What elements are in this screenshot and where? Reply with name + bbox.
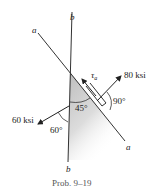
caption: Prob. 9–19 xyxy=(52,178,92,188)
label-80ksi: 80 ksi xyxy=(124,70,146,80)
label-angle-90: 90° xyxy=(113,96,126,106)
shaded-region xyxy=(68,72,118,160)
label-a-top: a xyxy=(32,25,37,35)
label-tau: τa xyxy=(91,70,97,81)
normal-arrow-60 xyxy=(38,106,69,124)
angle-arc-60 xyxy=(58,112,68,122)
label-a-bottom: a xyxy=(126,142,131,152)
label-angle-45: 45° xyxy=(75,103,88,113)
diagram-canvas: b b a a 80 ksi 60 ksi τa 45° 90° 60° Pro… xyxy=(0,0,157,190)
label-b-top: b xyxy=(70,12,75,22)
label-b-bottom: b xyxy=(66,164,71,174)
label-60ksi: 60 ksi xyxy=(12,115,34,125)
stress-element-diagram: b b a a 80 ksi 60 ksi τa 45° 90° 60° Pro… xyxy=(0,0,157,190)
angle-arc-90 xyxy=(107,92,111,110)
label-angle-60: 60° xyxy=(50,125,63,135)
